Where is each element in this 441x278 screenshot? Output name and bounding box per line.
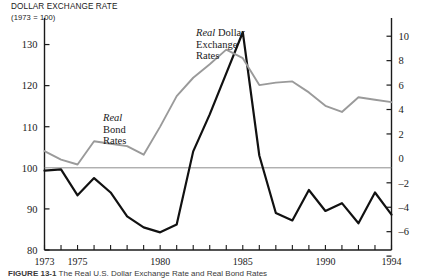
- y-tick-label-right: –6: [398, 226, 410, 237]
- series-line-real-bond-rates: [45, 50, 392, 165]
- y-tick-label-right: 4: [399, 104, 405, 115]
- data-series-group: [45, 32, 392, 232]
- figure-container: DOLLAR EXCHANGE RATE (1973 = 100) 130120…: [0, 0, 441, 278]
- annotation-real-bond-rates: Real Bond Rates: [103, 112, 126, 147]
- figure-caption: FIGURE 13-1 The Real U.S. Dollar Exchang…: [8, 269, 267, 278]
- y-tick-label-left: 100: [22, 163, 38, 174]
- y-tick-label-left: 110: [22, 122, 37, 133]
- y-tick-label-right: 0: [399, 153, 404, 164]
- y-tick-label-right: 6: [399, 80, 404, 91]
- y-tick-label-left: 130: [22, 39, 38, 50]
- y-tick-label-right: 2: [399, 129, 404, 140]
- y-tick-label-right: –2: [398, 178, 410, 189]
- y-tick-label-left: 90: [27, 204, 38, 215]
- caption-label: FIGURE: [8, 269, 38, 278]
- x-tick-label: 1994: [382, 256, 402, 267]
- y-tick-label-left: 80: [27, 245, 38, 256]
- series-line-real-dollar-exchange-rates: [45, 32, 392, 232]
- annotation-dollar-line2: Exchange: [196, 39, 245, 51]
- annotation-bond-line3: Rates: [103, 135, 126, 147]
- caption-number: 13-1: [40, 269, 56, 278]
- x-tick-label: 1980: [150, 256, 170, 267]
- annotation-dollar-line1-rest: Dollar: [215, 27, 244, 38]
- axis-tick-labels: 13012011010090801086420–2–4–619731975198…: [22, 31, 410, 267]
- x-tick-label: 1985: [233, 256, 253, 267]
- y-tick-label-left: 120: [22, 80, 38, 91]
- annotation-bond-line2: Bond: [103, 124, 126, 136]
- y-tick-label-right: 10: [399, 31, 410, 42]
- annotation-real-dollar-exchange-rates: Real Dollar Exchange Rates: [196, 27, 245, 62]
- x-tick-label: 1973: [35, 256, 55, 267]
- caption-text: The Real U.S. Dollar Exchange Rate and R…: [59, 269, 268, 278]
- annotation-dollar-line3: Rates: [196, 50, 245, 62]
- x-tick-label: 1990: [315, 256, 335, 267]
- x-tick-label: 1975: [68, 256, 88, 267]
- y-tick-label-right: 8: [399, 55, 404, 66]
- y-tick-label-right: –4: [398, 202, 410, 213]
- annotation-bond-line1: Real: [103, 112, 122, 123]
- annotation-dollar-line1-italic: Real: [196, 27, 215, 38]
